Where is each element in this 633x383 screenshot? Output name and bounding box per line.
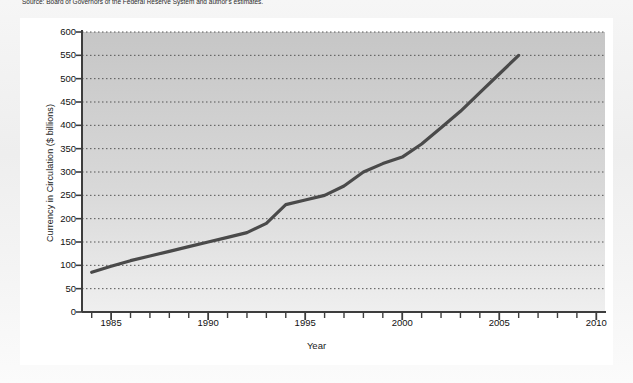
line-chart-svg — [20, 18, 613, 365]
chart-plot-container: Currency in Circulation ($ billions) Yea… — [20, 18, 613, 365]
figure-card: Currency in Circulation ($ billions) Yea… — [20, 18, 613, 365]
figure-source-caption: Source: Board of Governors of the Federa… — [22, 0, 612, 6]
x-axis-ticks — [92, 312, 597, 320]
